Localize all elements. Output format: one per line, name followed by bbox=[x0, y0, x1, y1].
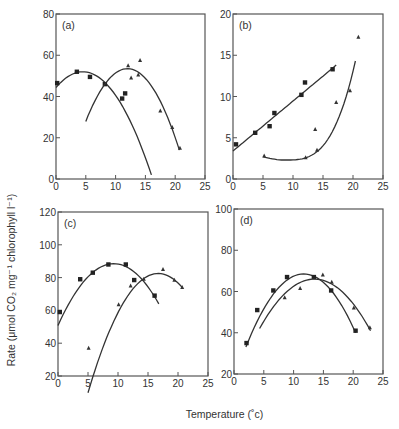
square-marker bbox=[285, 275, 289, 279]
plot-frame bbox=[233, 14, 383, 179]
panel-d: (d)051015202520406080100 bbox=[215, 204, 389, 387]
fit-curve-triangles bbox=[260, 279, 371, 331]
triangle-marker bbox=[313, 127, 317, 131]
y-tick-label: 15 bbox=[220, 50, 232, 61]
y-tick-label: 60 bbox=[221, 287, 233, 298]
panel-label: (a) bbox=[62, 19, 75, 31]
y-tick-label: 40 bbox=[221, 328, 233, 339]
triangle-marker bbox=[138, 58, 142, 62]
x-tick-label: 5 bbox=[83, 181, 89, 192]
y-tick-label: 40 bbox=[43, 92, 55, 103]
y-tick-label: 20 bbox=[45, 371, 57, 382]
plot-frame bbox=[58, 212, 208, 376]
y-tick-label: 80 bbox=[45, 273, 57, 284]
x-tick-label: 25 bbox=[202, 378, 214, 389]
y-tick-label: 60 bbox=[45, 305, 57, 316]
y-tick-label: 120 bbox=[39, 207, 56, 218]
x-tick-label: 20 bbox=[172, 378, 184, 389]
x-tick-label: 10 bbox=[110, 181, 122, 192]
square-marker bbox=[91, 270, 95, 274]
square-marker bbox=[152, 293, 156, 297]
triangle-marker bbox=[298, 286, 302, 290]
square-marker bbox=[58, 310, 62, 314]
x-tick-label: 15 bbox=[317, 181, 329, 192]
square-marker bbox=[244, 341, 248, 345]
x-tick-label: 5 bbox=[261, 376, 267, 387]
y-tick-label: 40 bbox=[45, 338, 57, 349]
y-tick-label: 5 bbox=[225, 133, 231, 144]
fit-curve-squares bbox=[233, 65, 336, 151]
square-marker bbox=[55, 81, 59, 85]
plot-frame bbox=[234, 209, 383, 374]
square-marker bbox=[75, 70, 79, 74]
y-tick-label: 0 bbox=[48, 174, 54, 185]
triangle-marker bbox=[262, 154, 266, 158]
x-tick-label: 20 bbox=[347, 181, 359, 192]
x-tick-label: 5 bbox=[260, 181, 266, 192]
square-marker bbox=[353, 328, 357, 332]
square-marker bbox=[299, 93, 303, 97]
triangle-marker bbox=[321, 273, 325, 277]
triangle-marker bbox=[126, 63, 130, 67]
y-tick-label: 60 bbox=[43, 50, 55, 61]
fit-curve-squares bbox=[246, 274, 356, 347]
square-marker bbox=[132, 278, 136, 282]
triangle-marker bbox=[356, 35, 360, 39]
x-tick-label: 15 bbox=[140, 181, 152, 192]
x-axis-label: Temperature (˚c) bbox=[0, 408, 399, 420]
square-marker bbox=[272, 111, 276, 115]
x-tick-label: 20 bbox=[348, 376, 360, 387]
y-tick-label: 10 bbox=[220, 92, 232, 103]
square-marker bbox=[124, 262, 128, 266]
square-marker bbox=[123, 91, 127, 95]
triangle-marker bbox=[117, 302, 121, 306]
fit-curve-triangles bbox=[86, 69, 180, 150]
triangle-marker bbox=[330, 280, 334, 284]
square-marker bbox=[106, 262, 110, 266]
triangle-marker bbox=[87, 346, 91, 350]
y-tick-label: 80 bbox=[221, 245, 233, 256]
x-tick-label: 10 bbox=[112, 378, 124, 389]
x-tick-label: 25 bbox=[377, 376, 389, 387]
fit-curve-triangles bbox=[263, 61, 355, 160]
triangle-marker bbox=[129, 283, 133, 287]
plot-frame bbox=[56, 14, 205, 179]
square-marker bbox=[120, 96, 124, 100]
x-tick-label: 25 bbox=[377, 181, 389, 192]
x-tick-label: 25 bbox=[199, 181, 211, 192]
square-marker bbox=[303, 80, 307, 84]
x-tick-label: 0 bbox=[231, 376, 237, 387]
y-tick-label: 100 bbox=[215, 204, 232, 215]
square-marker bbox=[329, 288, 333, 292]
fit-curve-squares bbox=[56, 72, 151, 175]
y-tick-label: 20 bbox=[221, 369, 233, 380]
x-tick-label: 15 bbox=[318, 376, 330, 387]
square-marker bbox=[234, 142, 238, 146]
y-tick-label: 0 bbox=[225, 174, 231, 185]
y-tick-label: 20 bbox=[220, 9, 232, 20]
x-tick-label: 10 bbox=[288, 376, 300, 387]
panel-label: (d) bbox=[240, 214, 253, 226]
triangle-marker bbox=[129, 76, 133, 80]
fit-curve-squares bbox=[58, 264, 159, 326]
x-tick-label: 0 bbox=[230, 181, 236, 192]
square-marker bbox=[255, 308, 259, 312]
square-marker bbox=[78, 277, 82, 281]
y-axis-label-container: Rate (μmol CO₂ mg⁻¹ chlorophyll l⁻¹) bbox=[4, 150, 18, 410]
panel-a: (a)0510152025020406080 bbox=[43, 9, 211, 192]
x-tick-label: 20 bbox=[170, 181, 182, 192]
y-tick-label: 100 bbox=[39, 240, 56, 251]
square-marker bbox=[88, 75, 92, 79]
x-tick-label: 10 bbox=[287, 181, 299, 192]
x-tick-label: 15 bbox=[142, 378, 154, 389]
triangle-marker bbox=[158, 109, 162, 113]
panel-label: (b) bbox=[239, 19, 252, 31]
y-tick-label: 20 bbox=[43, 133, 55, 144]
plot-canvas: (a)0510152025020406080(b)051015202505101… bbox=[0, 0, 399, 429]
triangle-marker bbox=[334, 100, 338, 104]
figure: (a)0510152025020406080(b)051015202505101… bbox=[0, 0, 399, 429]
y-axis-label: Rate (μmol CO₂ mg⁻¹ chlorophyll l⁻¹) bbox=[5, 194, 17, 367]
square-marker bbox=[267, 124, 271, 128]
panel-c: (c)051015202520406080100120 bbox=[39, 207, 214, 393]
panel-b: (b)051015202505101520 bbox=[220, 9, 389, 192]
